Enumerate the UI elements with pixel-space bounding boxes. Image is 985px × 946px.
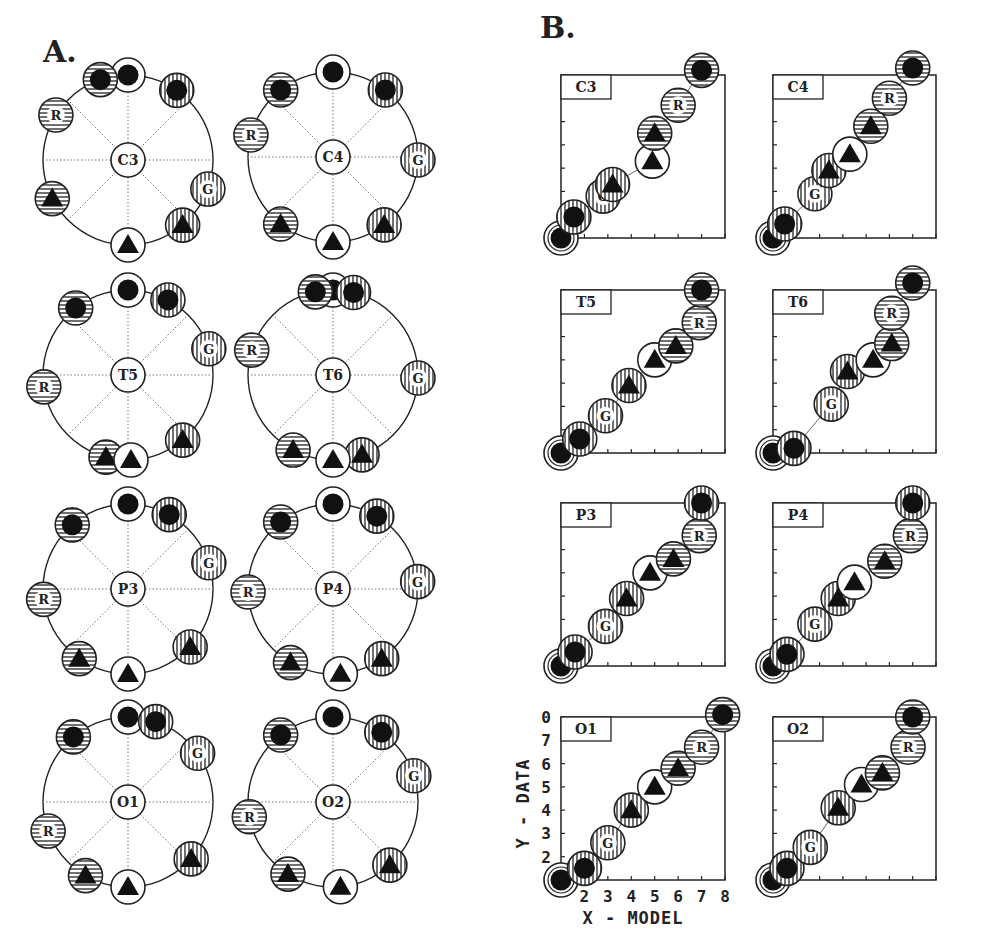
marker-hstripe-dot	[264, 718, 298, 752]
marker-hstripe-dot	[56, 720, 90, 754]
marker-vstripe-dot	[558, 635, 592, 669]
x-tick-label: 8	[720, 887, 730, 906]
x-tick-label: 3	[603, 887, 613, 906]
ring-o2: O2RG	[232, 700, 431, 904]
svg-text:G: G	[809, 187, 820, 202]
svg-text:R: R	[38, 380, 49, 395]
marker-hstripe-tri-triangle	[264, 207, 298, 241]
marker-vstripe-tri-triangle	[367, 208, 401, 242]
marker-white-dot	[316, 700, 350, 734]
svg-text:G: G	[412, 575, 423, 590]
svg-text:R: R	[43, 824, 54, 839]
x-tick-label: 6	[673, 887, 683, 906]
x-tick-label: 2	[580, 887, 590, 906]
panel-a-rings: C3RGC4RGT5RGT6RGP3RGP4RGO1RGO2RG	[27, 55, 435, 904]
marker-hstripe-dot	[83, 63, 117, 97]
marker-vstripe-dot	[557, 200, 591, 234]
ring-t6: T6RG	[235, 273, 435, 477]
svg-text:G: G	[203, 342, 214, 357]
marker-R: R	[235, 333, 269, 367]
marker-hstripe-dot	[55, 508, 89, 542]
marker-R: R	[872, 81, 906, 115]
marker-white-tri-triangle	[114, 443, 148, 477]
marker-G: G	[401, 565, 435, 599]
marker-vstripe-tri-triangle	[373, 848, 407, 882]
svg-text:G: G	[408, 769, 419, 784]
svg-text:G: G	[202, 182, 213, 197]
ring-c3: C3RG	[35, 58, 225, 262]
scatter-plot-t5: T5GR	[544, 273, 725, 470]
y-axis-title: Y - DATA	[513, 759, 533, 849]
marker-vstripe-dot	[685, 486, 719, 520]
marker-G: G	[192, 546, 226, 580]
marker-hstripe-dot	[59, 291, 93, 325]
marker-vstripe-dot	[360, 499, 394, 533]
marker-vstripe-tri-triangle	[610, 581, 644, 615]
marker-white-tri-triangle	[323, 657, 357, 691]
marker-vstripe-dot	[139, 705, 173, 739]
scatter-plot-c4: C4GR	[756, 51, 936, 255]
svg-text:R: R	[51, 108, 62, 123]
plot-label: T5	[576, 294, 596, 310]
plot-label: P3	[576, 507, 596, 523]
marker-G: G	[591, 826, 625, 860]
marker-white-tri-triangle	[111, 657, 145, 691]
marker-hstripe-dot	[685, 53, 719, 87]
scatter-plot-p4: P4GR	[756, 486, 936, 683]
scatter-plot-t6: T6GR	[756, 266, 936, 470]
x-axis-title: X - MODEL	[582, 908, 683, 928]
y-tick-label: 7	[541, 731, 551, 750]
svg-text:G: G	[412, 371, 423, 386]
marker-G: G	[401, 361, 435, 395]
marker-hstripe-dot	[685, 273, 719, 307]
marker-vstripe-dot	[152, 498, 186, 532]
ring-center-label: P4	[323, 581, 344, 597]
marker-G: G	[397, 759, 431, 793]
svg-text:G: G	[805, 840, 816, 855]
marker-hstripe-tri-triangle	[62, 642, 96, 676]
marker-vstripe-dot	[365, 715, 399, 749]
marker-vstripe-dot	[777, 431, 811, 465]
marker-vstripe-dot	[768, 207, 802, 241]
panel-b-scatterplots: C3GRC4GRT5GRT6GRP3GRP4GRO1GR234567823456…	[513, 51, 936, 928]
marker-vstripe-dot	[160, 73, 194, 107]
svg-text:G: G	[412, 153, 423, 168]
svg-text:G: G	[192, 746, 203, 761]
y-tick-label: 5	[541, 778, 551, 797]
marker-vstripe-tri-triangle	[345, 438, 379, 472]
ring-o1: O1RG	[31, 700, 215, 904]
marker-white-tri-triangle	[111, 870, 145, 904]
ring-p4: P4RG	[231, 487, 435, 691]
ring-center-label: O1	[117, 794, 139, 810]
x-tick-label: 7	[697, 887, 707, 906]
svg-text:R: R	[246, 343, 257, 358]
marker-G: G	[401, 143, 435, 177]
marker-vstripe-tri-triangle	[166, 423, 200, 457]
marker-vstripe-tri-triangle	[173, 630, 207, 664]
marker-G: G	[814, 387, 848, 421]
svg-text:G: G	[809, 617, 820, 632]
marker-hstripe-dot	[264, 505, 298, 539]
plot-label: O1	[575, 721, 597, 737]
scatter-plot-o1: O1GR23456782345670X - MODELY - DATA	[513, 698, 740, 928]
marker-R: R	[685, 730, 719, 764]
marker-R: R	[891, 730, 925, 764]
marker-white-tri-triangle	[323, 870, 357, 904]
marker-R: R	[661, 88, 695, 122]
ring-center-label: T6	[323, 367, 343, 383]
marker-vstripe-dot	[567, 851, 601, 885]
svg-text:R: R	[694, 529, 705, 544]
marker-R: R	[31, 814, 65, 848]
svg-text:R: R	[38, 592, 49, 607]
marker-G: G	[793, 830, 827, 864]
marker-vstripe-tri-triangle	[365, 642, 399, 676]
marker-G: G	[589, 399, 623, 433]
plot-label: C3	[576, 79, 597, 95]
marker-vstripe-tri-triangle	[596, 167, 630, 201]
marker-G: G	[589, 609, 623, 643]
marker-R: R	[232, 800, 266, 834]
marker-hstripe-tri-triangle	[271, 857, 305, 891]
panel-a-letter: A.	[42, 34, 77, 69]
marker-white-dot	[316, 487, 350, 521]
marker-R: R	[27, 582, 61, 616]
